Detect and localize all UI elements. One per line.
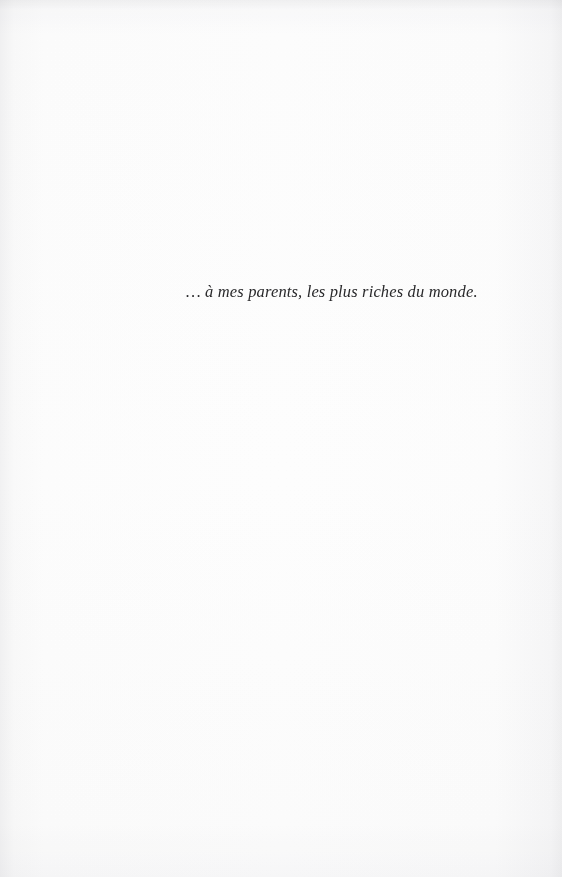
paper-edge-shading-vertical [0,0,562,877]
book-page: … à mes parents, les plus riches du mond… [0,0,562,877]
dedication-text: … à mes parents, les plus riches du mond… [186,281,486,303]
paper-edge-shading-horizontal [0,0,562,877]
